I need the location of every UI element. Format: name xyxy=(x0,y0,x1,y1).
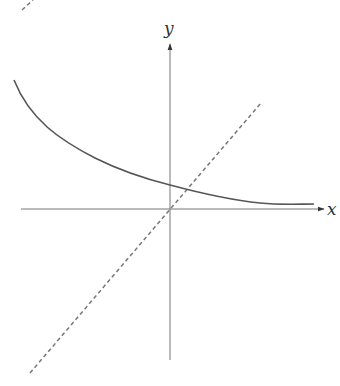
y-axis-label: y xyxy=(163,18,174,38)
decreasing-curve xyxy=(14,80,314,204)
stray-dashed-fragment xyxy=(22,0,33,10)
identity-line xyxy=(30,103,261,373)
function-graph: x y xyxy=(0,0,340,386)
x-axis-label: x xyxy=(327,199,337,219)
